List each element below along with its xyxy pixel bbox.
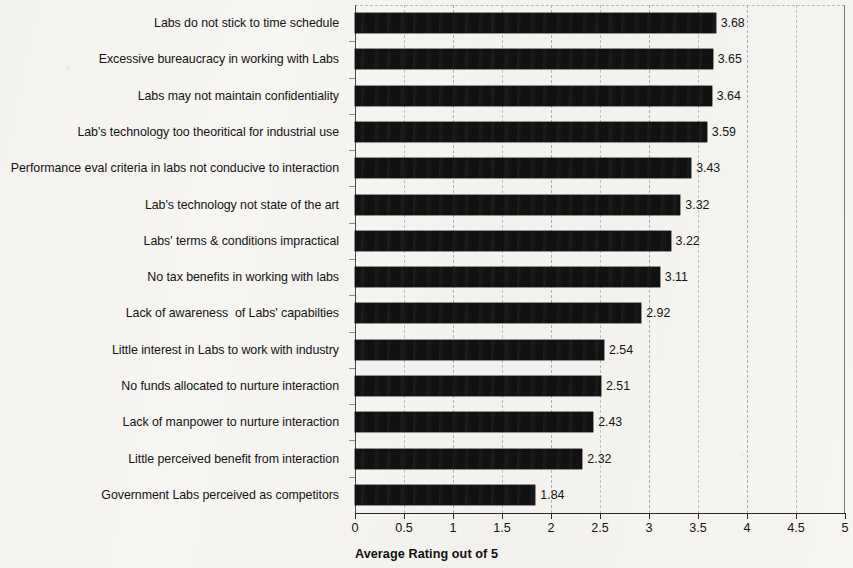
bar (355, 267, 660, 287)
category-tick (349, 78, 355, 79)
bar-row: 3.11 (355, 267, 845, 287)
bar-value-label: 2.92 (646, 306, 670, 320)
gridline-2.5 (600, 5, 601, 513)
x-tick-3 (649, 513, 650, 519)
x-tick-label-0.5: 0.5 (395, 521, 413, 536)
category-tick (349, 332, 355, 333)
bar-row: 3.64 (355, 86, 845, 106)
bar-value-label: 3.59 (712, 125, 736, 139)
gridline-0.5 (404, 5, 405, 513)
bar-value-label: 3.64 (717, 89, 741, 103)
category-tick (349, 186, 355, 187)
gridline-1 (453, 5, 454, 513)
category-label: Little interest in Labs to work with ind… (112, 343, 339, 357)
x-tick-1.5 (502, 513, 503, 519)
bar-value-label: 2.32 (587, 452, 611, 466)
gridline-4.5 (796, 5, 797, 513)
x-tick-1 (453, 513, 454, 519)
bar-row: 3.43 (355, 158, 845, 178)
category-label: Performance eval criteria in labs not co… (11, 161, 339, 175)
bar (355, 449, 582, 469)
x-tick-4.5 (796, 513, 797, 519)
gridline-4 (747, 5, 748, 513)
bar-value-label: 2.43 (598, 415, 622, 429)
gridline-3.5 (698, 5, 699, 513)
bar-row: 3.65 (355, 49, 845, 69)
bar (355, 340, 604, 360)
gridline-2 (551, 5, 552, 513)
bar-row: 3.68 (355, 13, 845, 33)
x-tick-4 (747, 513, 748, 519)
bar (355, 195, 680, 215)
category-label: Labs' terms & conditions impractical (144, 234, 339, 248)
category-label: Lack of awareness of Labs' capabilties (126, 306, 339, 320)
bar (355, 412, 593, 432)
bar (355, 303, 641, 323)
category-label: Lab's technology not state of the art (145, 198, 339, 212)
bar-value-label: 2.54 (609, 343, 633, 357)
x-tick-label-0: 0 (351, 521, 358, 536)
bar-value-label: 3.43 (696, 161, 720, 175)
x-axis-title: Average Rating out of 5 (0, 547, 853, 561)
bar-value-label: 3.65 (718, 52, 742, 66)
bar-value-label: 3.68 (721, 16, 745, 30)
category-tick (349, 404, 355, 405)
category-tick (349, 150, 355, 151)
bar-row: 2.54 (355, 340, 845, 360)
x-tick-label-4: 4 (743, 521, 750, 536)
category-tick (349, 295, 355, 296)
category-tick (349, 223, 355, 224)
plot-area: 3.683.653.643.593.433.323.223.112.922.54… (355, 5, 845, 513)
bar-value-label: 3.22 (676, 234, 700, 248)
x-tick-label-3: 3 (645, 521, 652, 536)
category-label: Lack of manpower to nurture interaction (123, 415, 339, 429)
bar (355, 485, 535, 505)
bar-row: 2.92 (355, 303, 845, 323)
chart-page: Labs do not stick to time scheduleExcess… (0, 0, 853, 568)
bar (355, 49, 713, 69)
bar (355, 13, 716, 33)
category-label: Little perceived benefit from interactio… (128, 452, 339, 466)
category-label: No tax benefits in working with labs (147, 270, 339, 284)
x-tick-3.5 (698, 513, 699, 519)
gridline-1.5 (502, 5, 503, 513)
category-label: Excessive bureaucracy in working with La… (99, 52, 339, 66)
category-tick (349, 368, 355, 369)
bar-row: 3.22 (355, 231, 845, 251)
x-tick-0 (355, 513, 356, 519)
x-tick-label-5: 5 (841, 521, 848, 536)
x-tick-label-2: 2 (547, 521, 554, 536)
category-tick (349, 114, 355, 115)
bar-row: 2.43 (355, 412, 845, 432)
bar-row: 1.84 (355, 485, 845, 505)
bar-row: 3.59 (355, 122, 845, 142)
category-label: Lab's technology too theoritical for ind… (77, 125, 339, 139)
category-label: No funds allocated to nurture interactio… (121, 379, 339, 393)
bar (355, 158, 691, 178)
bar (355, 122, 707, 142)
plot-right-border (844, 5, 845, 513)
x-tick-2.5 (600, 513, 601, 519)
category-tick (349, 477, 355, 478)
category-label: Government Labs perceived as competitors (101, 488, 339, 502)
bar-row: 2.32 (355, 449, 845, 469)
x-tick-label-1: 1 (449, 521, 456, 536)
bar-value-label: 1.84 (540, 488, 564, 502)
category-label: Labs may not maintain confidentiality (138, 89, 339, 103)
category-label: Labs do not stick to time schedule (154, 16, 339, 30)
x-tick-5 (845, 513, 846, 519)
bar-value-label: 3.32 (685, 198, 709, 212)
plot-left-border (355, 5, 356, 513)
x-tick-label-3.5: 3.5 (689, 521, 707, 536)
category-tick (349, 440, 355, 441)
bar (355, 86, 712, 106)
bar-value-label: 3.11 (665, 270, 688, 284)
category-axis-labels: Labs do not stick to time scheduleExcess… (0, 5, 347, 513)
bar-row: 2.51 (355, 376, 845, 396)
category-tick (349, 259, 355, 260)
gridline-3 (649, 5, 650, 513)
bar (355, 231, 671, 251)
x-tick-label-4.5: 4.5 (787, 521, 805, 536)
bar-row: 3.32 (355, 195, 845, 215)
x-tick-label-2.5: 2.5 (591, 521, 609, 536)
